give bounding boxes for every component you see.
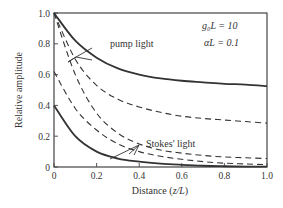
series-line-4 bbox=[54, 72, 267, 165]
param-alphaL: αL = 0.1 bbox=[204, 37, 239, 48]
y-axis-label: Relative amplitude bbox=[13, 52, 24, 128]
y-tick-label: 0.6 bbox=[38, 70, 50, 80]
y-tick-label: 1.0 bbox=[38, 9, 50, 19]
series-line-3 bbox=[54, 105, 267, 166]
y-tick-label: 0.2 bbox=[38, 132, 50, 142]
pump-light-label: pump light bbox=[110, 38, 154, 49]
x-axis-label: Distance (z/L) bbox=[132, 185, 188, 197]
tick-labels: 00.20.40.60.81.000.20.40.60.81.0 bbox=[38, 9, 273, 182]
x-tick-label: 0.4 bbox=[133, 171, 145, 181]
x-tick-label: 1.0 bbox=[261, 171, 273, 181]
x-tick-label: 0.8 bbox=[218, 171, 230, 181]
series-line-2 bbox=[54, 13, 267, 159]
y-tick-label: 0.8 bbox=[38, 39, 50, 49]
pump-light-annotation: pump light bbox=[68, 38, 154, 62]
y-tick-label: 0.4 bbox=[38, 101, 50, 111]
x-tick-label: 0.2 bbox=[91, 171, 103, 181]
x-tick-label: 0 bbox=[52, 171, 57, 181]
param-g0L: g₀L = 10 bbox=[202, 20, 238, 31]
x-tick-label: 0.6 bbox=[176, 171, 188, 181]
y-tick-label: 0 bbox=[45, 163, 50, 173]
chart: 00.20.40.60.81.000.20.40.60.81.0 pump li… bbox=[0, 0, 283, 208]
stokes-light-label: Stokes' light bbox=[146, 138, 196, 149]
stokes-light-annotation: Stokes' light bbox=[110, 138, 196, 159]
